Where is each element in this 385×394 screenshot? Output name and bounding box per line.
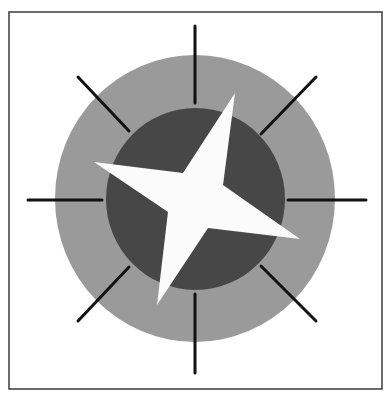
compass-emblem xyxy=(0,0,385,394)
